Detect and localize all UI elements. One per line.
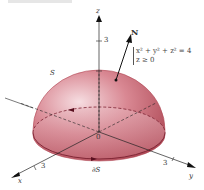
y-tick-label: 3 [163, 160, 167, 167]
x-tick-label: 3 [41, 163, 45, 170]
z-axis-arrow-icon [96, 15, 102, 22]
origin-label: 0 [96, 134, 100, 141]
hemisphere-diagram [0, 0, 204, 190]
normal-label: N [131, 28, 138, 36]
equation-line-2: z ≥ 0 [136, 56, 191, 65]
equation-line-1: x² + y² + z² = 4 [136, 47, 191, 56]
x-axis-label: x [18, 178, 22, 185]
z-tick-label: 3 [104, 37, 108, 44]
z-axis-label: z [96, 8, 100, 15]
surface-equation: x² + y² + z² = 4 z ≥ 0 [133, 47, 191, 65]
surface-label: S [50, 70, 55, 77]
boundary-label: ∂S [92, 167, 100, 174]
y-axis-arrow-icon [187, 162, 196, 168]
y-axis-label: y [189, 173, 193, 180]
